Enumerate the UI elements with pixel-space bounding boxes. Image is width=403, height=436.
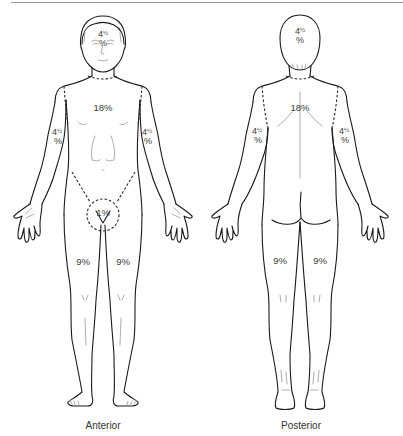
anterior-groin-boundary [72,172,135,202]
posterior-left-arm-label-pct: % [254,135,262,145]
posterior-left-leg-label: 9% [273,255,287,266]
anterior-caption: Anterior [85,420,121,431]
anterior-left-hand [164,204,192,242]
anterior-right-arm-label-pct: % [54,136,62,146]
posterior-trunk-boundary-left [262,86,268,128]
anterior-left-arm-outline [140,100,176,204]
rule-of-nines-diagram: 4½ % 18% 4½ % 4½ % 1% 9% 9% Anterior [0,0,403,436]
posterior-right-hand [358,204,388,242]
anterior-mouth [98,60,108,61]
posterior-trunk-boundary-right [332,86,338,128]
anterior-left-leg-label: 9% [116,256,130,267]
anterior-labels: 4½ % 18% 4½ % 4½ % 1% 9% 9% Anterior [52,29,152,431]
anterior-right-hand [14,204,42,242]
anterior-left-leg [105,215,142,406]
posterior-left-arm-outline [228,102,268,204]
posterior-right-leg-label: 9% [313,255,327,266]
posterior-buttocks [272,192,330,224]
posterior-figure [212,15,388,410]
anterior-trunk-label: 18% [93,102,113,113]
posterior-left-hand [212,204,242,242]
anterior-right-leg-label: 9% [76,256,90,267]
posterior-left-leg [262,222,300,410]
anterior-perineum-label: 1% [96,207,110,218]
anterior-left-arm-label-pct: % [144,136,152,146]
posterior-caption: Posterior [281,420,322,431]
anterior-head-label-pct: % [99,38,107,48]
anterior-right-leg [64,215,101,406]
anterior-neck-boundary [88,76,118,79]
posterior-right-leg [300,222,338,410]
posterior-trunk-label: 18% [290,102,310,113]
anterior-torso-outline [55,76,151,102]
posterior-right-arm-outline [332,102,372,204]
posterior-right-arm-label-pct: % [341,135,349,145]
posterior-head-label-pct: % [296,35,304,45]
anterior-right-arm-outline [30,100,66,204]
